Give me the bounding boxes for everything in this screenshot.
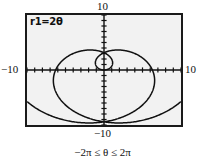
equation-readout: r1=2θ xyxy=(30,17,63,27)
axis-label-left: −10 xyxy=(1,64,24,75)
calculator-screen: r1=2θ xyxy=(25,13,183,127)
axis-label-bottom: −10 xyxy=(0,128,205,139)
axis-label-right: 10 xyxy=(185,64,205,75)
axis-label-top: 10 xyxy=(0,1,205,12)
figure-caption: −2π ≤ θ ≤ 2π xyxy=(0,146,205,158)
polar-plot-canvas xyxy=(27,15,181,125)
polar-graph-figure: 10 −10 10 −10 r1=2θ −2π ≤ θ ≤ 2π xyxy=(0,0,205,166)
